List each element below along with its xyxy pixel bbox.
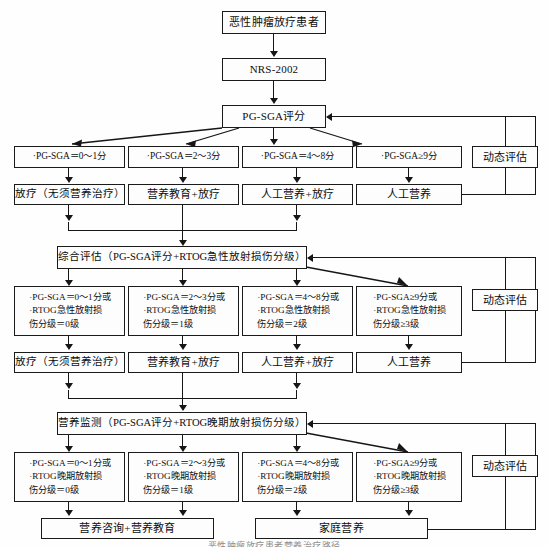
stage3-criteria-3: ·PG-SGA＝4～8分或 ·RTOG晚期放射损 伤分级＝2级 <box>242 452 353 502</box>
stage2-dynamic-assessment: 动态评估 <box>472 289 538 311</box>
stage2-treatment-3-label: 人工营养+放疗 <box>261 356 335 369</box>
arrow-s1c3 <box>293 177 301 183</box>
rail3-into-stage3-header <box>308 423 536 424</box>
stage3-criteria-4: ·PG-SGA≥9分或 ·RTOG晚期放射损 伤分级≥3级 <box>356 452 462 502</box>
stage2-treatment-2-label: 营养教育+放疗 <box>147 356 221 369</box>
stage1-treatment-3: 人工营养+放疗 <box>242 184 353 205</box>
arrow-s2c2 <box>179 344 187 350</box>
arrow-rail2-into-stage2-header <box>307 254 313 262</box>
stage2-criteria-4-label: ·PG-SGA≥9分或 ·RTOG急性放射损 伤分级≥3级 <box>370 288 447 333</box>
flowchart-canvas: 恶性肿瘤放疗患者 NRS-2002 PG-SGA评分 ·PG-SGA＝0～1分 … <box>0 0 548 547</box>
stage2-treatment-4: 人工营养 <box>356 352 462 373</box>
arrow-rail1-into-scoring <box>326 113 332 121</box>
stage1-criteria-3-label: ·PG-SGA＝4～8分 <box>261 151 334 162</box>
stage1-treatment-1: 放疗（无须营养治疗） <box>14 184 125 205</box>
stage1-criteria-2-label: ·PG-SGA＝2～3分 <box>147 151 220 162</box>
arrow-s3c2 <box>179 510 187 516</box>
node-patient: 恶性肿瘤放疗患者 <box>222 11 326 34</box>
rail2-dynamic-stub-top <box>505 257 506 289</box>
stage2-criteria-3: ·PG-SGA＝4～8分或 ·RTOG急性放射损 伤分级＝2级 <box>242 286 353 336</box>
stage3-header-label: 营养监测（PG-SGA评分+RTOG晚期放射损伤分级） <box>58 417 306 430</box>
stage1-treatment-2: 营养教育+放疗 <box>128 184 239 205</box>
rail2-from-t4 <box>462 362 536 363</box>
connector-s1t2-trunk <box>182 205 183 243</box>
stage2-dynamic-assessment-label: 动态评估 <box>483 294 528 307</box>
stage2-criteria-4: ·PG-SGA≥9分或 ·RTOG急性放射损 伤分级≥3级 <box>356 286 462 336</box>
rail3-from-outcome2 <box>428 529 536 530</box>
rail1-from-t4 <box>462 194 536 195</box>
stage1-criteria-4: ·PG-SGA≥9分 <box>356 146 462 168</box>
stage3-outcome-1-label: 营养咨询+营养教育 <box>79 522 175 535</box>
figure-caption: 恶性肿瘤放疗患者营养治疗路径 <box>0 539 548 547</box>
arrow-scoring-to-c3 <box>270 139 278 145</box>
arrow-s2c3 <box>293 344 301 350</box>
stage1-dynamic-assessment-label: 动态评估 <box>483 151 528 164</box>
arrow-s1t3-down <box>293 215 301 221</box>
node-pgsga-scoring-label: PG-SGA评分 <box>242 110 305 123</box>
stage1-criteria-3: ·PG-SGA＝4～8分 <box>242 146 353 168</box>
stage2-criteria-2-label: ·PG-SGA＝2～3分或 ·RTOG急性放射损 伤分级＝1级 <box>140 288 226 333</box>
arrow-s2c4 <box>405 344 413 350</box>
stage1-criteria-2: ·PG-SGA＝2～3分 <box>128 146 239 168</box>
arrow-s1c2 <box>179 177 187 183</box>
connector-s2t2-trunk <box>182 373 183 409</box>
rail2-dynamic-stub-bottom <box>505 311 506 363</box>
arrow-s1c4 <box>405 177 413 183</box>
arrow-s2t1-down <box>65 383 73 389</box>
stage1-dynamic-assessment: 动态评估 <box>472 146 538 168</box>
stage2-criteria-1: ·PG-SGA＝0～1分或 ·RTOG急性放射损 伤分级＝0级 <box>14 286 125 336</box>
node-screening-label: NRS-2002 <box>250 63 299 76</box>
stage3-outcome-2: 家庭营养 <box>255 518 428 539</box>
stage1-criteria-4-label: ·PG-SGA≥9分 <box>381 151 437 162</box>
arrow-screening-to-scoring <box>270 98 278 104</box>
stage1-treatment-4: 人工营养 <box>356 184 462 205</box>
stage3-criteria-2-label: ·PG-SGA＝2～3分或 ·RTOG晚期放射损 伤分级＝1级 <box>140 454 226 499</box>
stage2-criteria-3-label: ·PG-SGA＝4～8分或 ·RTOG急性放射损 伤分级＝2级 <box>254 288 340 333</box>
stage3-criteria-1-label: ·PG-SGA＝0～1分或 ·RTOG晚期放射损 伤分级＝0级 <box>26 454 112 499</box>
arrow-s3c3 <box>293 510 301 516</box>
node-screening: NRS-2002 <box>222 58 326 81</box>
rail1-dynamic-stub-top <box>505 116 506 146</box>
stage1-treatment-3-label: 人工营养+放疗 <box>261 188 335 201</box>
node-pgsga-scoring: PG-SGA评分 <box>222 105 326 128</box>
stage2-treatment-1: 放疗（无须营养治疗） <box>14 352 125 373</box>
rail1-dynamic-stub-bottom <box>505 168 506 195</box>
stage2-criteria-2: ·PG-SGA＝2～3分或 ·RTOG急性放射损 伤分级＝1级 <box>128 286 239 336</box>
stage3-criteria-4-label: ·PG-SGA≥9分或 ·RTOG晚期放射损 伤分级≥3级 <box>370 454 447 499</box>
arrow-patient-to-screening <box>270 51 278 57</box>
stage3-header: 营养监测（PG-SGA评分+RTOG晚期放射损伤分级） <box>57 412 307 435</box>
stage1-treatment-4-label: 人工营养 <box>387 188 432 201</box>
stage1-treatment-1-label: 放疗（无须营养治疗） <box>15 188 124 201</box>
stage3-dynamic-assessment: 动态评估 <box>472 455 538 477</box>
stage2-treatment-4-label: 人工营养 <box>387 356 432 369</box>
arrow-s3c4 <box>405 510 413 516</box>
stage3-criteria-3-label: ·PG-SGA＝4～8分或 ·RTOG晚期放射损 伤分级＝2级 <box>254 454 340 499</box>
arrow-s2t3-down <box>293 383 301 389</box>
rail3-dynamic-stub-bottom <box>505 477 506 529</box>
stage2-treatment-1-label: 放疗（无须营养治疗） <box>15 356 124 369</box>
stage1-criteria-1: ·PG-SGA＝0～1分 <box>14 146 125 168</box>
rail2-into-stage2-header <box>308 257 536 258</box>
stage2-criteria-1-label: ·PG-SGA＝0～1分或 ·RTOG急性放射损 伤分级＝0级 <box>26 288 112 333</box>
arrow-s1t1-down <box>65 215 73 221</box>
stage2-treatment-3: 人工营养+放疗 <box>242 352 353 373</box>
rail3-dynamic-stub-top <box>505 423 506 455</box>
stage2-header-label: 综合评估（PG-SGA评分+RTOG急性放射损伤分级） <box>58 251 306 264</box>
stage3-criteria-2: ·PG-SGA＝2～3分或 ·RTOG晚期放射损 伤分级＝1级 <box>128 452 239 502</box>
stage3-criteria-1: ·PG-SGA＝0～1分或 ·RTOG晚期放射损 伤分级＝0级 <box>14 452 125 502</box>
stage2-treatment-2: 营养教育+放疗 <box>128 352 239 373</box>
stage3-outcome-2-label: 家庭营养 <box>319 522 364 535</box>
arrow-stage2-into-monitoring <box>179 405 187 411</box>
stage1-treatment-2-label: 营养教育+放疗 <box>147 188 221 201</box>
stage2-header: 综合评估（PG-SGA评分+RTOG急性放射损伤分级） <box>57 246 307 269</box>
arrow-rail3-into-stage3-header <box>307 420 313 428</box>
arrow-s3c1 <box>65 510 73 516</box>
stage3-dynamic-assessment-label: 动态评估 <box>483 460 528 473</box>
node-patient-label: 恶性肿瘤放疗患者 <box>229 16 319 29</box>
arrow-s1c1 <box>65 177 73 183</box>
arrow-s2c1 <box>65 344 73 350</box>
stage1-criteria-1-label: ·PG-SGA＝0～1分 <box>33 151 106 162</box>
stage3-outcome-1: 营养咨询+营养教育 <box>41 518 214 539</box>
